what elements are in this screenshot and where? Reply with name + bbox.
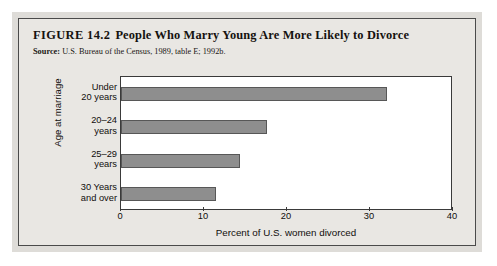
category-label-line: 30 Years [51, 182, 117, 193]
x-axis-tick-label: 0 [117, 211, 122, 221]
x-axis-tick-label: 40 [447, 211, 457, 221]
category-label-line: 20–24 [51, 115, 117, 126]
category-label-line: 20 years [51, 92, 117, 103]
x-axis-tick-list: 010203040 [120, 211, 452, 227]
category-label-line: and over [51, 193, 117, 204]
category-label-line: years [51, 159, 117, 170]
x-axis-tick-label: 10 [198, 211, 208, 221]
category-label-line: 25–29 [51, 149, 117, 160]
figure-panel-inner: FIGURE 14.2People Who Marry Young Are Mo… [18, 18, 476, 246]
category-label: Under20 years [51, 82, 117, 103]
category-label: 25–29years [51, 149, 117, 170]
figure-panel: FIGURE 14.2People Who Marry Young Are Mo… [12, 12, 482, 252]
bar-row [121, 178, 451, 212]
bar [121, 120, 267, 134]
category-label: 30 Yearsand over [51, 182, 117, 203]
bar [121, 187, 216, 201]
category-label-list: Under20 years20–24years25–29years30 Year… [47, 76, 117, 210]
x-axis-tick-label: 20 [281, 211, 291, 221]
category-label: 20–24years [51, 115, 117, 136]
bar-row [121, 77, 451, 111]
bar-row [121, 111, 451, 145]
bar-chart: Age at marriage Under20 years20–24years2… [19, 19, 475, 245]
x-axis-tick-label: 30 [364, 211, 374, 221]
bar [121, 87, 387, 101]
bar-row [121, 144, 451, 178]
category-label-line: years [51, 126, 117, 137]
x-axis-title: Percent of U.S. women divorced [120, 227, 452, 238]
bar [121, 154, 240, 168]
category-label-line: Under [51, 82, 117, 93]
plot-area [120, 76, 452, 210]
